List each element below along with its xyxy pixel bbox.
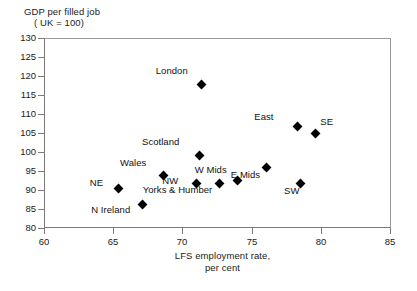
y-axis-tick (38, 133, 44, 134)
y-axis-tick-label: 80 (0, 223, 36, 233)
x-axis-tick-label: 65 (98, 236, 128, 247)
y-axis-tick-label: 85 (0, 204, 36, 214)
x-axis-tick-label: 75 (237, 236, 267, 247)
scatter-chart: GDP per filled job ( UK = 100) 808590951… (0, 0, 417, 291)
y-axis-tick-label: 130 (0, 33, 36, 43)
y-axis-tick-label: 120 (0, 71, 36, 81)
x-axis-tick-label: 85 (375, 236, 405, 247)
x-axis-tick (321, 228, 322, 234)
y-axis-tick (38, 95, 44, 96)
data-point-label: N Ireland (91, 205, 130, 215)
data-point-label: SE (320, 117, 333, 127)
y-axis-tick (38, 38, 44, 39)
x-axis-tick (252, 228, 253, 234)
data-point-label: E Mids (231, 170, 260, 180)
y-axis-tick-label: 95 (0, 166, 36, 176)
data-point-label: SW (284, 186, 299, 196)
x-axis-tick (390, 228, 391, 234)
y-axis-tick (38, 57, 44, 58)
x-axis-tick-label: 70 (167, 236, 197, 247)
data-point-label: Yorks & Humber (143, 185, 213, 195)
data-point-label: NE (90, 178, 103, 188)
y-axis-tick-label: 125 (0, 52, 36, 62)
data-point-label: East (254, 112, 273, 122)
y-axis-tick (38, 76, 44, 77)
x-axis-title: LFS employment rate, per cent (0, 250, 417, 273)
x-axis-tick-label: 60 (29, 236, 59, 247)
x-axis-title-line2: per cent (0, 262, 417, 274)
x-axis-tick (182, 228, 183, 234)
x-axis-tick-label: 80 (306, 236, 336, 247)
x-axis-tick (113, 228, 114, 234)
data-point-label: W Mids (195, 165, 227, 175)
x-axis-tick (44, 228, 45, 234)
plot-area (44, 38, 390, 228)
x-axis-title-line1: LFS employment rate, (0, 250, 417, 262)
data-point-label: Wales (120, 158, 146, 168)
y-axis-tick (38, 171, 44, 172)
y-axis-tick-label: 90 (0, 185, 36, 195)
plot-frame-right (390, 38, 391, 229)
y-axis-tick (38, 114, 44, 115)
y-axis-tick-label: 110 (0, 109, 36, 119)
data-point-label: London (156, 66, 188, 76)
y-axis-tick (38, 152, 44, 153)
y-axis-tick (38, 190, 44, 191)
y-axis-title-line1: GDP per filled job (24, 6, 100, 18)
y-axis-tick-label: 105 (0, 128, 36, 138)
y-axis-title-line2: ( UK = 100) (34, 17, 84, 29)
y-axis-tick-label: 115 (0, 90, 36, 100)
data-point-label: Scotland (142, 137, 179, 147)
y-axis-tick-label: 100 (0, 147, 36, 157)
y-axis-tick (38, 209, 44, 210)
